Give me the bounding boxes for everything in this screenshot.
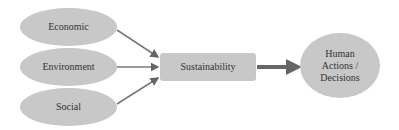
arrow-social-to-sustainability xyxy=(117,78,158,104)
node-economic-label: Economic xyxy=(48,21,89,33)
node-social: Social xyxy=(20,88,117,126)
node-environment-label: Environment xyxy=(42,61,94,73)
node-human-actions-label: Human Actions / Decisions xyxy=(312,48,368,84)
node-sustainability: Sustainability xyxy=(160,53,256,81)
node-economic: Economic xyxy=(20,8,117,46)
node-social-label: Social xyxy=(56,101,81,113)
node-human-actions: Human Actions / Decisions xyxy=(300,33,380,98)
node-sustainability-label: Sustainability xyxy=(181,61,236,73)
node-environment: Environment xyxy=(20,48,117,86)
arrow-economic-to-sustainability xyxy=(117,30,158,57)
